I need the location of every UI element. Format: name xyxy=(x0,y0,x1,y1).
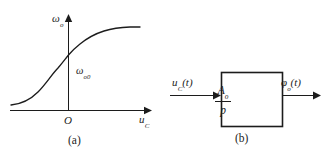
x-axis-label: uC xyxy=(139,114,149,128)
origin-label: O xyxy=(64,115,72,126)
y-axis-arrowhead xyxy=(65,14,72,22)
fraction-bar xyxy=(215,101,231,102)
panel-b-caption: (b) xyxy=(235,133,248,145)
panel-a-characteristic-curve: ωo uC O ωo0 (a) xyxy=(0,0,161,154)
panel-b-block-diagram: uC(t) Ao p φo(t) (b) xyxy=(161,0,322,154)
transfer-function-numerator: Ao xyxy=(208,84,238,100)
output-arrowhead xyxy=(313,92,321,100)
transfer-function-denominator: p xyxy=(208,104,238,117)
figure-root: ωo uC O ωo0 (a) uC(t) Ao xyxy=(0,0,322,154)
y-axis-label: ωo xyxy=(52,13,63,27)
omega-o0-label: ωo0 xyxy=(76,66,90,79)
panel-a-caption: (a) xyxy=(68,135,81,147)
transfer-function-expression: Ao p xyxy=(208,84,238,116)
input-signal-label: uC(t) xyxy=(172,77,193,91)
output-signal-label: φo(t) xyxy=(281,77,301,91)
